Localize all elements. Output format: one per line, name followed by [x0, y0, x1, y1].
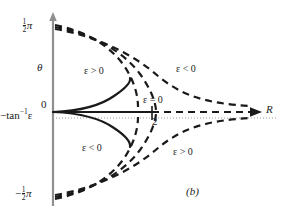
- fraction-one-half: 1 2: [22, 186, 26, 203]
- figure-caption: (b): [186, 186, 199, 197]
- region-label-epsilon-lt-0-upper: ε < 0: [176, 64, 196, 74]
- x-tick-label-two: 2: [152, 116, 158, 127]
- R-axis: [152, 107, 262, 117]
- region-label-epsilon-lt-0-lower: ε < 0: [82, 143, 102, 153]
- fraction-one-half: 1 2: [23, 18, 27, 35]
- neg-arctan-lead: −tan: [0, 109, 20, 121]
- y-tick-label-neg-arctan-epsilon: −tan−1ε: [0, 110, 32, 121]
- x-axis-label: R: [266, 104, 273, 115]
- region-label-epsilon-eq-0: ε = 0: [143, 95, 163, 105]
- y-axis-label: θ: [37, 62, 42, 73]
- lower-dashed-inner: [55, 117, 138, 199]
- y-tick-label-zero: 0: [41, 99, 47, 110]
- neg-arctan-exponent: −1: [20, 107, 28, 116]
- lower-dashed-outer: [55, 118, 252, 195]
- theta-axis: [49, 12, 57, 206]
- neg-arctan-epsilon-glyph: ε: [28, 109, 33, 121]
- region-label-epsilon-gt-0-lower: ε > 0: [173, 147, 193, 157]
- upper-dashed-middle: [55, 27, 156, 110]
- pi-glyph: π: [26, 187, 32, 199]
- bifurcation-figure: 1 2 π θ 0 −tan−1ε − 1 2 π 2 R ε > 0 ε < …: [0, 0, 283, 220]
- y-tick-label-half-pi-top: 1 2 π: [22, 18, 32, 35]
- minus-sign: −: [15, 187, 21, 199]
- pi-glyph: π: [27, 19, 33, 31]
- region-label-epsilon-gt-0-upper: ε > 0: [84, 66, 104, 76]
- epsilon-zero-solid-branch-upper: [53, 78, 130, 112]
- y-tick-label-half-pi-bottom: − 1 2 π: [15, 186, 31, 203]
- lower-dashed-middle: [55, 114, 156, 197]
- plot-canvas: [0, 0, 283, 220]
